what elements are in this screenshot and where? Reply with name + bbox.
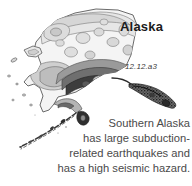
contour-interior-f [56, 40, 64, 46]
caption-line-4: has a high seismic hazard. [2, 161, 190, 176]
figure-caption: Southern Alaska has large subduction- re… [2, 116, 190, 176]
figure-number-label: 12.12.a3 [125, 63, 157, 71]
contour-interior-b [94, 28, 104, 36]
island-small-west-a [8, 75, 11, 77]
contour-northwest-core [51, 28, 62, 36]
caption-line-1: Southern Alaska [2, 116, 190, 131]
contour-interior-d [65, 47, 78, 57]
caption-line-2: has large subduction- [2, 131, 190, 146]
island-small-west-d [12, 99, 14, 101]
island-small-west-e [30, 104, 33, 106]
contour-interior-c [107, 38, 119, 47]
island-small-west-c [22, 94, 25, 96]
map-title-alaska: Alaska [120, 20, 163, 33]
contour-interior-e [85, 51, 95, 59]
island-small-west-b [16, 83, 19, 85]
contour-interior-i [100, 19, 108, 25]
alaska-seismic-hazard-figure: Alaska 12.12.a3 Southern Alaska has larg… [0, 0, 192, 186]
caption-line-3: related earthquakes and [2, 146, 190, 161]
contour-interior-a [76, 33, 90, 44]
